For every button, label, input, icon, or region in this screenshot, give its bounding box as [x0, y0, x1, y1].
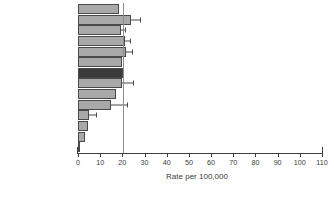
error-bar-line: [89, 115, 96, 116]
x-axis-tick-label: 0: [66, 158, 90, 167]
error-bar-cap: [127, 102, 128, 107]
error-bar-line: [122, 83, 133, 84]
error-bar-cap: [96, 113, 97, 118]
bar: [78, 132, 85, 142]
error-bar-line: [131, 19, 140, 20]
bar-row: [78, 121, 322, 131]
bar-row: [78, 100, 322, 110]
x-axis-tick: [100, 153, 101, 157]
bar: [78, 4, 119, 14]
x-axis-tick: [255, 153, 256, 157]
bar: [78, 36, 125, 46]
bar: [78, 142, 80, 152]
plot-area: [78, 4, 322, 153]
x-axis-line: [78, 153, 323, 154]
x-axis-tick: [233, 153, 234, 157]
bar: [78, 47, 126, 57]
bar-row: [78, 110, 322, 120]
x-axis-tick-label: 100: [288, 158, 312, 167]
x-axis-tick: [189, 153, 190, 157]
x-axis-tick-label: 10: [88, 158, 112, 167]
bar-row: [78, 47, 322, 57]
bar-row: [78, 89, 322, 99]
x-axis-tick-label: 110: [310, 158, 334, 167]
error-bar-cap: [140, 17, 141, 22]
bar: [78, 89, 116, 99]
bar-row: [78, 15, 322, 25]
x-axis-tick-label: 20: [110, 158, 134, 167]
x-axis-tick: [300, 153, 301, 157]
x-axis-tick-label: 70: [221, 158, 245, 167]
x-axis-tick-label: 50: [177, 158, 201, 167]
error-bar-cap: [132, 49, 133, 54]
bar: [78, 25, 121, 35]
bar: [78, 110, 89, 120]
x-axis-title: Rate per 100,000: [0, 172, 334, 181]
bar: [78, 100, 111, 110]
bar: [78, 78, 122, 88]
error-bar-cap: [133, 81, 134, 86]
bar: [78, 57, 122, 67]
x-axis-tick-label: 40: [155, 158, 179, 167]
bar-row: [78, 142, 322, 152]
bar-row: [78, 36, 322, 46]
x-axis-tick: [167, 153, 168, 157]
x-axis-tick: [78, 153, 79, 157]
x-axis-tick: [122, 153, 123, 157]
x-axis-tick: [322, 153, 323, 157]
bar-row: [78, 78, 322, 88]
x-axis-tick: [211, 153, 212, 157]
x-axis-tick-label: 30: [133, 158, 157, 167]
x-axis-tick-label: 60: [199, 158, 223, 167]
error-bar-line: [111, 104, 127, 105]
bar-row: [78, 57, 322, 67]
bar-row: [78, 25, 322, 35]
bar-row: [78, 68, 322, 78]
x-axis-tick: [145, 153, 146, 157]
reference-line: [123, 3, 124, 154]
bar: [78, 121, 88, 131]
error-bar-cap: [130, 38, 131, 43]
bar: [78, 68, 123, 78]
x-axis-tick-label: 80: [243, 158, 267, 167]
bar-row: [78, 4, 322, 14]
x-axis-tick: [278, 153, 279, 157]
error-bar-cap: [125, 28, 126, 33]
horizontal-bar-chart: Rate per 100,000 01020304050607080901001…: [0, 0, 334, 197]
error-bar-line: [126, 51, 133, 52]
bar-row: [78, 132, 322, 142]
x-axis-tick-label: 90: [266, 158, 290, 167]
